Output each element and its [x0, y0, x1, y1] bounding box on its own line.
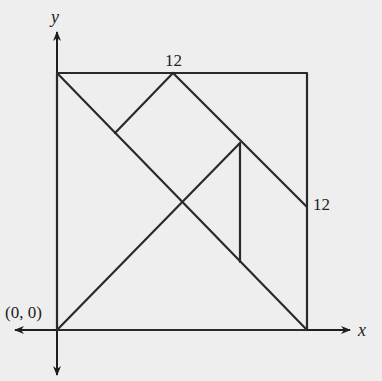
- diagram-canvas: y x (0, 0) 12 12: [0, 0, 382, 381]
- right-midpoint-label: 12: [313, 195, 330, 214]
- tangram: [57, 73, 307, 330]
- square-piece-edge: [115, 73, 173, 133]
- y-axis-label: y: [49, 7, 59, 27]
- x-axis-label: x: [357, 320, 366, 340]
- origin-label: (0, 0): [5, 303, 42, 322]
- top-midpoint-label: 12: [165, 51, 182, 70]
- tangram-diagram: y x (0, 0) 12 12: [0, 0, 382, 381]
- origin-to-apex: [57, 143, 240, 330]
